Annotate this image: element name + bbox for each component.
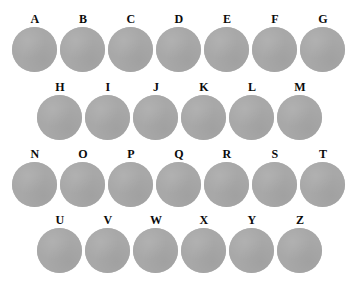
sample-cell-b[interactable]: B [59, 11, 107, 79]
sample-disc-b[interactable] [60, 27, 105, 72]
sample-disc-c[interactable] [108, 27, 153, 72]
sample-label-n: N [11, 146, 59, 162]
sample-cell-u[interactable]: U [36, 212, 84, 280]
sample-label-l: L [228, 79, 276, 95]
sample-cell-f[interactable]: F [251, 11, 299, 79]
sample-disc-l[interactable] [229, 95, 274, 140]
sample-disc-d[interactable] [156, 27, 201, 72]
sample-row-3: NOPQRST [0, 146, 354, 214]
sample-disc-r[interactable] [204, 162, 249, 207]
sample-cell-t[interactable]: T [299, 146, 347, 214]
sample-cell-h[interactable]: H [36, 79, 84, 147]
sample-disc-s[interactable] [252, 162, 297, 207]
sample-disc-t[interactable] [300, 162, 345, 207]
sample-label-z: Z [276, 212, 324, 228]
sample-label-a: A [11, 11, 59, 27]
sample-cell-g[interactable]: G [299, 11, 347, 79]
sample-cell-m[interactable]: M [276, 79, 324, 147]
sample-disc-j[interactable] [133, 95, 178, 140]
sample-label-o: O [59, 146, 107, 162]
sample-label-y: Y [228, 212, 276, 228]
sample-label-g: G [299, 11, 347, 27]
sample-label-b: B [59, 11, 107, 27]
sample-label-i: I [84, 79, 132, 95]
sample-cell-j[interactable]: J [132, 79, 180, 147]
sample-label-f: F [251, 11, 299, 27]
sample-disc-g[interactable] [300, 27, 345, 72]
sample-label-x: X [180, 212, 228, 228]
sample-disc-q[interactable] [156, 162, 201, 207]
sample-label-m: M [276, 79, 324, 95]
sample-cell-x[interactable]: X [180, 212, 228, 280]
sample-cell-d[interactable]: D [155, 11, 203, 79]
sample-row-2: HIJKLM [0, 79, 354, 147]
sample-label-j: J [132, 79, 180, 95]
sample-cell-e[interactable]: E [203, 11, 251, 79]
sample-label-e: E [203, 11, 251, 27]
sample-disc-a[interactable] [12, 27, 57, 72]
sample-plate-grid: ABCDEFGHIJKLMNOPQRSTUVWXYZ [0, 0, 354, 289]
sample-cell-z[interactable]: Z [276, 212, 324, 280]
sample-disc-w[interactable] [133, 228, 178, 273]
sample-disc-u[interactable] [37, 228, 82, 273]
sample-cell-y[interactable]: Y [228, 212, 276, 280]
sample-cell-v[interactable]: V [84, 212, 132, 280]
sample-cell-o[interactable]: O [59, 146, 107, 214]
sample-cell-k[interactable]: K [180, 79, 228, 147]
sample-cell-r[interactable]: R [203, 146, 251, 214]
sample-cell-s[interactable]: S [251, 146, 299, 214]
sample-label-t: T [299, 146, 347, 162]
sample-disc-i[interactable] [85, 95, 130, 140]
sample-row-4: UVWXYZ [0, 212, 354, 280]
sample-cell-q[interactable]: Q [155, 146, 203, 214]
sample-cell-n[interactable]: N [11, 146, 59, 214]
sample-label-q: Q [155, 146, 203, 162]
sample-label-v: V [84, 212, 132, 228]
sample-label-p: P [107, 146, 155, 162]
sample-cell-p[interactable]: P [107, 146, 155, 214]
sample-cell-l[interactable]: L [228, 79, 276, 147]
sample-disc-n[interactable] [12, 162, 57, 207]
sample-disc-k[interactable] [181, 95, 226, 140]
sample-cell-i[interactable]: I [84, 79, 132, 147]
sample-cell-w[interactable]: W [132, 212, 180, 280]
sample-disc-x[interactable] [181, 228, 226, 273]
sample-disc-y[interactable] [229, 228, 274, 273]
sample-row-1: ABCDEFG [0, 11, 354, 79]
sample-disc-f[interactable] [252, 27, 297, 72]
sample-disc-z[interactable] [277, 228, 322, 273]
sample-label-c: C [107, 11, 155, 27]
sample-disc-m[interactable] [277, 95, 322, 140]
sample-disc-p[interactable] [108, 162, 153, 207]
sample-disc-e[interactable] [204, 27, 249, 72]
sample-disc-v[interactable] [85, 228, 130, 273]
sample-disc-h[interactable] [37, 95, 82, 140]
sample-label-h: H [36, 79, 84, 95]
sample-label-w: W [132, 212, 180, 228]
sample-label-d: D [155, 11, 203, 27]
sample-label-k: K [180, 79, 228, 95]
sample-label-r: R [203, 146, 251, 162]
sample-cell-a[interactable]: A [11, 11, 59, 79]
sample-disc-o[interactable] [60, 162, 105, 207]
sample-label-s: S [251, 146, 299, 162]
sample-label-u: U [36, 212, 84, 228]
sample-cell-c[interactable]: C [107, 11, 155, 79]
